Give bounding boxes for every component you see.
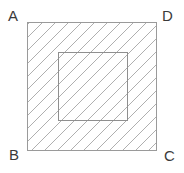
vertex-label-a: A <box>8 8 18 23</box>
outer-square-hatch-fill <box>27 22 157 151</box>
vertex-label-d: D <box>162 8 173 23</box>
vertex-label-c: C <box>164 148 175 163</box>
vertex-label-b: B <box>9 147 19 162</box>
figure-canvas <box>0 0 184 173</box>
geometry-figure: A D B C <box>0 0 184 173</box>
